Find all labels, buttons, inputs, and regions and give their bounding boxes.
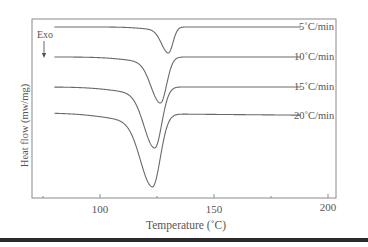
curve-5cpm — [54, 27, 300, 53]
curve-15cpm — [54, 87, 300, 148]
exo-arrow-icon — [42, 41, 46, 58]
series-label-20: 20˚C/min — [294, 110, 334, 121]
x-axis-ticks — [43, 194, 328, 198]
exo-label: Exo — [37, 29, 53, 40]
series-label-10: 10˚C/min — [294, 51, 334, 62]
curve-20cpm — [54, 113, 300, 187]
x-tick-100: 100 — [92, 203, 109, 215]
series-label-15: 15˚C/min — [294, 81, 334, 92]
y-axis-label: Heat flow (mw/mg) — [19, 76, 30, 176]
dsc-chart — [0, 0, 368, 247]
curve-10cpm — [54, 57, 300, 103]
curves — [54, 27, 300, 187]
bottom-rule — [0, 238, 368, 242]
series-label-5: 5˚C/min — [299, 21, 334, 32]
x-axis-label: Temperature (˚C) — [146, 219, 226, 231]
x-tick-150: 150 — [206, 203, 223, 215]
x-tick-200: 200 — [320, 201, 337, 213]
plot-frame — [32, 19, 336, 198]
